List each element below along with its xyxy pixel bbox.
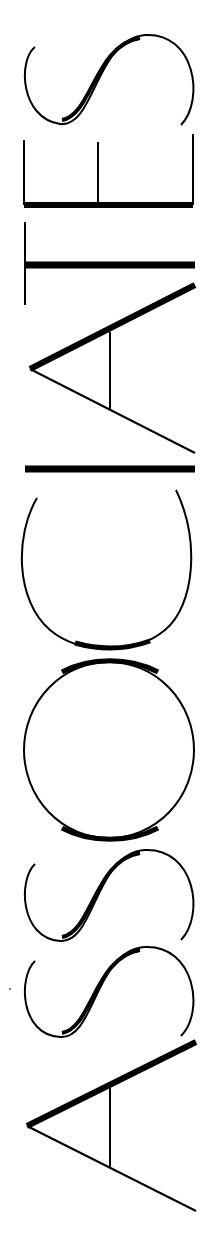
associates-wordmark: [0, 0, 208, 1234]
letter-s-second: [25, 850, 194, 941]
letter-o: [24, 661, 194, 840]
letter-s-final: [25, 35, 194, 125]
letter-a-initial: [27, 1042, 196, 1211]
letter-t: [25, 222, 195, 305]
letter-s-first: [9, 947, 193, 1037]
letter-a-inner: [30, 285, 195, 453]
letter-e: [24, 134, 193, 205]
letter-c: [22, 490, 191, 649]
